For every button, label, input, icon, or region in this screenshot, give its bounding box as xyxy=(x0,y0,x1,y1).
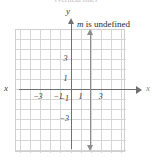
line-arrow-down-icon xyxy=(87,145,93,151)
slope-annotation-text: is undefined xyxy=(84,19,131,29)
y-tick-label: 3 xyxy=(64,54,68,63)
graphed-line-x-equals-1 xyxy=(90,34,92,146)
x-tick-label: 3 xyxy=(99,92,103,101)
x-axis-label-left: x xyxy=(4,83,8,93)
y-axis-arrow-icon xyxy=(68,18,74,24)
y-tick-label: −1 xyxy=(60,94,69,103)
x-axis-label-right: x xyxy=(146,83,150,93)
line-arrow-up-icon xyxy=(87,29,93,35)
figure-caption: (vertical line) xyxy=(0,0,152,2)
graph-figure: (vertical line) x x y m is undefined −3−… xyxy=(0,0,152,164)
slope-annotation: m is undefined xyxy=(77,19,130,29)
x-tick-label: 1 xyxy=(79,92,83,101)
y-tick-label: 1 xyxy=(64,74,68,83)
x-tick-label: −3 xyxy=(33,92,42,101)
y-axis-label: y xyxy=(66,6,70,16)
x-axis-arrow-icon xyxy=(136,86,142,94)
x-axis xyxy=(19,89,138,90)
y-axis xyxy=(71,23,72,149)
y-tick-label: −3 xyxy=(60,114,69,123)
